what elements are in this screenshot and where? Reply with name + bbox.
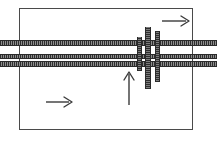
horizontal-track-band-3	[0, 61, 217, 67]
vertical-crossing-bar-2	[145, 27, 151, 89]
vertical-crossing-bar-1	[137, 37, 142, 71]
horizontal-track-band-1	[0, 40, 217, 46]
diagram-canvas	[0, 0, 217, 141]
arrow-right-bottom-icon	[46, 95, 76, 109]
horizontal-track-band-2	[0, 54, 217, 59]
vertical-crossing-bar-3	[155, 31, 160, 82]
arrow-up-center-icon	[122, 71, 136, 105]
arrow-right-top-icon	[162, 14, 192, 28]
